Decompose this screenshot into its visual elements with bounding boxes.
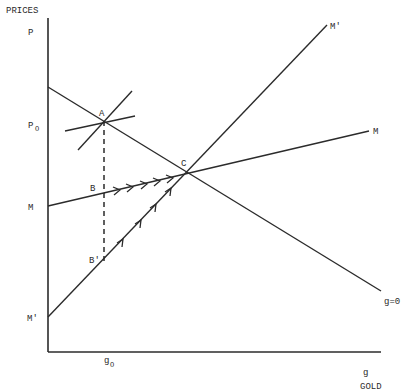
m-curve-arrows bbox=[113, 175, 173, 195]
p0-label: P bbox=[28, 121, 33, 131]
x-axis-variable: g bbox=[363, 368, 368, 378]
a-local-steep-line bbox=[78, 91, 132, 150]
p0-subscript: O bbox=[35, 125, 39, 133]
m-prime-intercept-label: M' bbox=[27, 314, 38, 324]
g0-subscript: O bbox=[110, 361, 114, 369]
m-curve bbox=[48, 131, 369, 206]
m-curve-label: M bbox=[373, 127, 378, 137]
g0-label: g bbox=[104, 356, 109, 366]
m-prime-curve-label: M' bbox=[330, 22, 341, 32]
arrow-chevron-icon bbox=[140, 181, 147, 189]
m-prime-curve bbox=[48, 25, 327, 317]
arrow-chevron-icon bbox=[166, 175, 173, 183]
point-b-prime-label: B' bbox=[89, 256, 100, 266]
arrow-chevron-icon bbox=[153, 178, 160, 186]
g-zero-label: g=0 bbox=[384, 297, 400, 307]
point-a-label: A bbox=[99, 109, 105, 119]
diagram-svg: PRICES P g GOLD P O M M' g O g=0 M M' A … bbox=[0, 0, 412, 392]
m-intercept-label: M bbox=[28, 203, 33, 213]
arrow-chevron-icon bbox=[117, 239, 123, 247]
x-axis-title: GOLD bbox=[360, 382, 382, 392]
y-axis-variable: P bbox=[28, 28, 33, 38]
arrow-chevron-icon bbox=[135, 220, 141, 228]
gold-price-diagram: PRICES P g GOLD P O M M' g O g=0 M M' A … bbox=[0, 0, 412, 392]
point-c-label: C bbox=[181, 159, 187, 169]
point-b-label: B bbox=[90, 184, 96, 194]
y-axis-title: PRICES bbox=[6, 6, 38, 16]
